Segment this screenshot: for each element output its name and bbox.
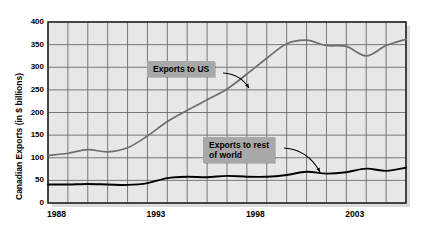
y-axis-tick-label: 50 <box>20 176 44 184</box>
x-axis-tick-label: 1998 <box>246 210 265 219</box>
y-axis-tick-label: 250 <box>20 86 44 94</box>
y-axis-tick-label: 150 <box>20 131 44 139</box>
x-axis-tick-label: 1988 <box>47 210 66 219</box>
annotation-label-exports-to-rest-of-world: Exports to rest of world <box>203 137 275 163</box>
x-axis-tick-label: 1993 <box>146 210 165 219</box>
y-axis-tick-label: 300 <box>20 63 44 71</box>
chart-plot-svg <box>0 0 427 232</box>
y-axis-tick-label: 200 <box>20 109 44 117</box>
x-axis-tick-label: 2003 <box>345 210 364 219</box>
y-axis-tick-label: 350 <box>20 41 44 49</box>
y-axis-tick-label: 100 <box>20 154 44 162</box>
y-axis-tick-label: 400 <box>20 18 44 26</box>
chart-container: Canadian Exports (in $ billions) 0501001… <box>0 0 427 232</box>
y-axis-tick-label: 0 <box>20 199 44 207</box>
annotation-label-exports-to-us: Exports to US <box>147 61 215 77</box>
